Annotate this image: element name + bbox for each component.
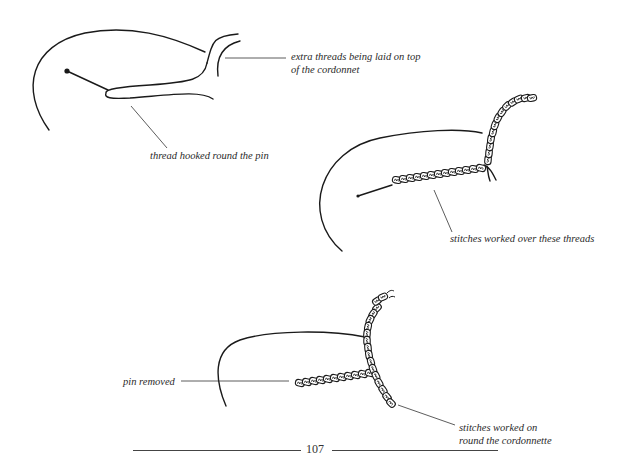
label-line: of the cordonnet: [291, 63, 420, 76]
label-pin-removed: pin removed: [123, 375, 175, 388]
figure-3-stitches-horizontal: [295, 369, 375, 387]
footer-rule-left: [133, 450, 301, 451]
page-number: 107: [306, 442, 324, 457]
footer-rule-right: [332, 450, 498, 451]
figure-3-drawing: [218, 332, 365, 406]
figure-2-stitches-horizontal: [392, 164, 486, 184]
label-extra-threads: extra threads being laid on top of the c…: [291, 50, 420, 76]
figure-3-stitches-vertical: [363, 292, 396, 408]
leader-stitches-on: [398, 405, 455, 425]
label-thread-hooked: thread hooked round the pin: [150, 149, 269, 162]
label-line: thread hooked round the pin: [150, 149, 269, 162]
label-stitches-over: stitches worked over these threads: [450, 232, 594, 245]
label-line: stitches worked over these threads: [450, 232, 594, 245]
label-line: extra threads being laid on top: [291, 50, 420, 63]
label-stitches-on: stitches worked on round the cordonnette: [459, 421, 552, 447]
label-line: round the cordonnette: [459, 434, 552, 447]
leader-stitches-over: [434, 190, 452, 232]
figure-2-stitches-vertical: [484, 94, 537, 165]
figure-1-drawing: [33, 30, 240, 130]
label-line: pin removed: [123, 375, 175, 388]
label-line: stitches worked on: [459, 421, 552, 434]
book-page: extra threads being laid on top of the c…: [0, 0, 628, 460]
leader-thread-hooked: [131, 106, 167, 148]
